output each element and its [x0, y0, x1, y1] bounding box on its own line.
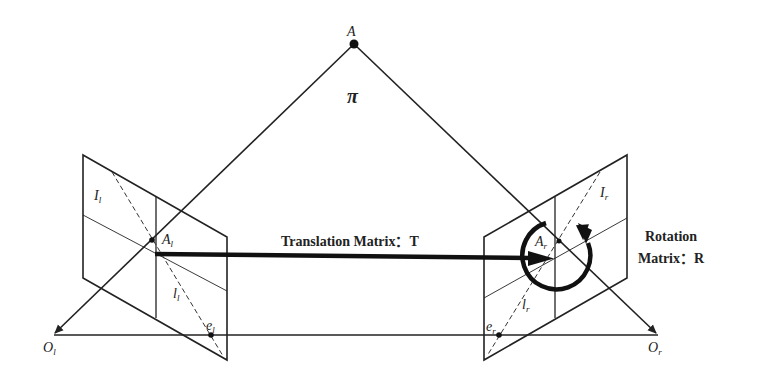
label-epipolar-right: lr — [522, 297, 530, 314]
label-Ir: Ir — [599, 185, 609, 202]
translation-label: Translation Matrix：T — [281, 234, 419, 249]
label-Ol: Ol — [43, 340, 56, 357]
rotation-label-line2: Matrix：R — [638, 251, 705, 266]
ray-right — [354, 44, 656, 333]
ray-left — [55, 44, 354, 333]
stereo-geometry-diagram: A π Il Al ll el Ol Ir Ar lr er Or Transl… — [0, 0, 761, 377]
label-Al: Al — [161, 232, 174, 249]
point-Ar — [557, 239, 562, 244]
point-A — [350, 40, 359, 49]
label-Ar: Ar — [534, 234, 548, 251]
point-Al — [149, 237, 155, 243]
rotation-label-line1: Rotation — [645, 229, 697, 244]
label-el: el — [206, 318, 215, 335]
label-A: A — [346, 24, 356, 39]
label-Or: Or — [648, 340, 662, 357]
label-Il: Il — [93, 188, 102, 205]
translation-arrow — [155, 251, 554, 266]
epipole-right — [496, 332, 502, 338]
label-epipolar-left: ll — [173, 286, 180, 303]
label-pi: π — [347, 85, 359, 107]
label-er: er — [486, 319, 496, 336]
